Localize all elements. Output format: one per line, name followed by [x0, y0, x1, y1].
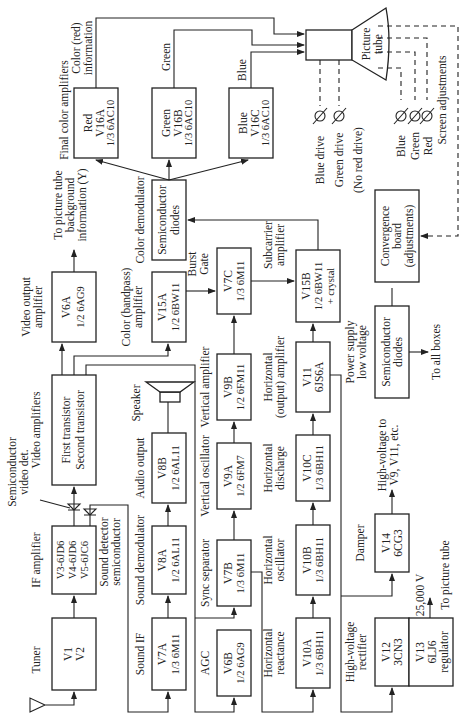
picture-tube-label: Picture	[360, 28, 372, 61]
horiz-osc-caption: Horizontal	[262, 535, 274, 584]
horiz-disch-caption: discharge	[274, 446, 287, 490]
kv-label: 25,000 V	[414, 573, 427, 616]
horiz-disch-line: V10C	[301, 454, 313, 482]
sound-det-label: Sound detector	[98, 517, 110, 586]
damper-line: V14	[380, 533, 392, 553]
green-amp-line: 1/3 6AC10	[183, 100, 194, 146]
sound-if-line: 1/3 6M11	[170, 634, 181, 675]
burst-gate-line: V7C	[222, 270, 234, 292]
bandpass-line: V15A	[156, 292, 168, 321]
video-output-block	[52, 272, 96, 342]
subcarrier-line: 1/2 6BW11	[313, 262, 324, 310]
hv-to-label: V9, V11, etc.	[388, 424, 401, 485]
horiz-osc-line: 1/3 6BH11	[314, 537, 325, 583]
video-out-line: V6A	[60, 295, 72, 318]
horiz-react-caption: Horizontal	[262, 628, 274, 677]
horiz-react-line: 1/3 6BH11	[314, 630, 325, 676]
power-supply-line: Semiconductor	[380, 317, 392, 387]
bandpass-line: 1/2 6BW11	[170, 283, 181, 331]
blue-drive-label: Blue drive	[314, 136, 326, 184]
blue-label: Blue	[236, 59, 248, 81]
sound-demod-line: V8A	[156, 548, 168, 571]
agc-line: 1/2 6AG9	[235, 642, 246, 684]
regulator-line: 6LJ6	[426, 640, 438, 663]
hv-rect-line: 3CN3	[392, 638, 404, 666]
y-info-label: information (Y)	[76, 168, 89, 241]
video-amps-line: First transistor	[60, 396, 72, 463]
sync-line: 1/3 6M11	[235, 553, 246, 594]
vert-osc-line: 1/2 6FM7	[235, 455, 246, 497]
if-line: V3-6JD6	[55, 541, 66, 580]
picture-tube-neck	[306, 30, 352, 60]
tv-block-diagram: Tuner V1 V2 IF amplifier V3-6JD6 V4-6JD6…	[0, 0, 468, 722]
damper-line: 6CG3	[392, 529, 404, 557]
horiz-out-line: V11	[301, 367, 313, 387]
vert-amp-line: V9B	[222, 376, 234, 398]
sound-demod-caption: Sound demodulator	[134, 515, 146, 606]
bandpass-caption: amplifier	[132, 286, 145, 328]
antenna-icon	[30, 692, 74, 712]
speaker-magnet	[160, 392, 180, 402]
tuner-line: V1	[62, 647, 74, 661]
to-picture-tube-label: To picture tube	[439, 540, 452, 609]
power-supply-line: diodes	[392, 336, 404, 367]
horiz-osc-line: V10B	[301, 546, 313, 574]
screen-red-label: Red	[422, 136, 434, 155]
video-out-caption: amplifier	[32, 286, 45, 328]
video-det-label: Semiconductor	[6, 437, 18, 507]
vert-osc-line: V9A	[222, 464, 234, 487]
screen-blue-label: Blue	[395, 135, 407, 157]
sound-if-caption: Sound IF	[134, 633, 146, 676]
convergence-line: board	[391, 223, 403, 249]
vert-osc-caption: Vertical oscillator	[199, 435, 211, 517]
red-amp-line: Red	[82, 113, 94, 132]
video-out-line: 1/2 6AG9	[75, 286, 86, 328]
blue-amp-line: 1/3 6AC10	[260, 100, 271, 146]
subcarrier-line: + crystal	[325, 268, 336, 305]
horiz-out-line: 6JS6A	[313, 361, 325, 392]
color-red-label: information	[82, 21, 94, 76]
burst-gate-caption: Burst	[186, 251, 198, 277]
potentiometer-icons	[313, 108, 434, 124]
to-all-boxes-label: To all boxes	[430, 323, 442, 380]
video-amps-caption: Video amplifiers	[30, 391, 43, 468]
horiz-out-caption: Horizontal	[262, 352, 274, 401]
damper-caption: Damper	[354, 524, 367, 561]
sound-det-label: semiconductor	[110, 518, 122, 586]
agc-caption: AGC	[199, 651, 211, 676]
sync-caption: Sync separator	[199, 539, 212, 607]
if-line: V5-6JC6	[79, 541, 90, 579]
audio-out-caption: Audio output	[134, 437, 147, 499]
horiz-out-caption: (output) amplifier	[274, 336, 287, 418]
horiz-disch-caption: Horizontal	[262, 443, 274, 492]
color-demod-line: diodes	[169, 204, 181, 235]
vert-amp-caption: Vertical amplifier	[199, 346, 212, 427]
sound-demod-line: 1/2 6AL11	[170, 537, 181, 582]
green-label: Green	[160, 43, 172, 71]
audio-out-line: V8B	[156, 457, 168, 479]
horiz-react-line: V10A	[301, 638, 313, 667]
video-det-label: video det.	[18, 449, 30, 494]
if-caption: IF amplifier	[30, 532, 43, 587]
picture-tube-label: tube	[372, 34, 384, 54]
tuner-caption: Tuner	[30, 646, 42, 673]
horiz-osc-caption: oscillator	[274, 538, 286, 581]
regulator-line: V13	[414, 642, 426, 662]
video-amps-line: Second transistor	[74, 390, 86, 470]
sound-if-line: V7A	[156, 642, 168, 665]
vert-amp-line: 1/2 6FM11	[235, 364, 246, 411]
horiz-react-caption: reactance	[274, 631, 286, 674]
sync-line: V7B	[222, 562, 234, 584]
color-demod-caption: Color demodulator	[134, 176, 146, 263]
green-drive-label: Green drive	[333, 133, 345, 188]
agc-line: V6B	[222, 652, 234, 674]
blue-amp-line: Blue	[237, 112, 249, 134]
screen-green-label: Green	[409, 132, 421, 160]
subcarrier-line: V15B	[300, 272, 312, 300]
screen-adjustments-label: Screen adjustments	[436, 55, 449, 145]
speaker-caption: Speaker	[130, 384, 143, 421]
hv-rect-line: V12	[380, 642, 392, 662]
if-line: V4-6JD6	[67, 541, 78, 580]
burst-gate-caption: Gate	[198, 253, 210, 275]
regulator-line: regulator	[438, 631, 451, 673]
